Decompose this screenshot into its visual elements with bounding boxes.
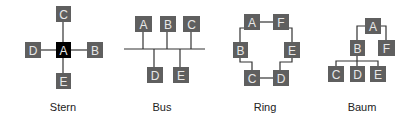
svg-text:B: B [164,18,172,32]
bus-node-e: E [173,67,189,83]
star-node-a-center: A [56,42,71,58]
svg-text:C: C [332,68,341,82]
svg-text:E: E [177,69,185,83]
ring-node-d: D [273,70,289,86]
svg-text:A: A [369,20,377,34]
caption-stern: Stern [50,101,76,113]
svg-text:B: B [236,44,244,58]
svg-text:C: C [248,72,257,86]
bus-node-c: C [183,16,200,32]
edge-a-b [357,26,365,40]
ring-node-a: A [244,14,260,30]
ring-node-b: B [233,42,248,58]
bus-diagram: A B C D E [124,16,205,83]
edge-b-c [240,57,252,70]
svg-text:E: E [59,75,67,89]
tree-node-b: B [350,40,365,56]
svg-text:D: D [353,68,362,82]
tree-node-a: A [365,18,381,34]
svg-text:B: B [91,44,99,58]
tree-node-e: E [370,66,386,82]
ring-node-e: E [284,42,300,58]
tree-node-f: F [378,40,395,56]
caption-bus: Bus [153,101,172,113]
svg-text:A: A [139,18,147,32]
star-node-e: E [56,73,71,89]
edge-e-d [280,57,292,70]
svg-text:E: E [374,68,382,82]
svg-text:D: D [277,72,286,86]
bus-node-a: A [135,16,152,32]
star-node-b: B [87,42,103,58]
svg-text:C: C [59,8,68,22]
tree-diagram: A B F C D E [328,18,395,82]
tree-node-c: C [328,66,344,82]
svg-text:D: D [151,69,160,83]
edge-f-e [288,28,292,42]
star-diagram: C A D B E [25,6,103,89]
svg-text:C: C [187,18,196,32]
caption-baum: Baum [348,101,377,113]
star-node-d: D [25,42,41,58]
caption-ring: Ring [254,101,277,113]
svg-text:A: A [59,44,67,58]
bus-node-b: B [160,16,176,32]
svg-text:A: A [248,16,256,30]
bus-node-d: D [147,67,163,83]
tree-node-d: D [350,66,365,82]
star-node-c: C [56,6,71,22]
ring-diagram: A F B E C D [233,14,300,86]
svg-text:B: B [353,42,361,56]
svg-text:F: F [383,42,390,56]
svg-text:E: E [288,44,296,58]
edge-a-b [240,28,244,42]
svg-text:D: D [29,44,38,58]
ring-node-f: F [273,14,289,30]
ring-node-c: C [244,70,260,86]
svg-text:F: F [277,16,284,30]
